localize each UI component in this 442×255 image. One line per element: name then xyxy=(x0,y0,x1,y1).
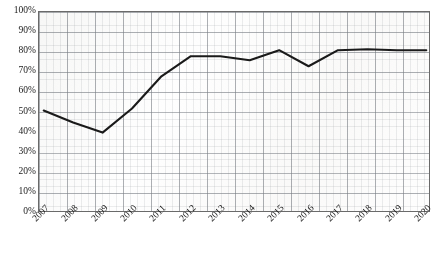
y-axis-tick-label: 70% xyxy=(0,66,36,76)
y-axis-tick-label: 50% xyxy=(0,107,36,117)
series-line xyxy=(44,49,427,132)
y-axis-tick-label: 10% xyxy=(0,187,36,197)
plot-area xyxy=(38,11,430,212)
y-axis-tick-label: 40% xyxy=(0,127,36,137)
y-axis-tick-label: 90% xyxy=(0,26,36,36)
y-axis-tick-label: 80% xyxy=(0,46,36,56)
series-line-group xyxy=(39,12,430,212)
y-axis-tick-label: 20% xyxy=(0,167,36,177)
y-axis-tick-label: 30% xyxy=(0,147,36,157)
line-chart: 0%10%20%30%40%50%60%70%80%90%100% 200720… xyxy=(0,0,442,255)
y-axis-tick-label: 60% xyxy=(0,86,36,96)
x-axis-labels: 2007200820092010201120122013201420152016… xyxy=(38,214,430,255)
y-axis-tick-label: 100% xyxy=(0,6,36,16)
